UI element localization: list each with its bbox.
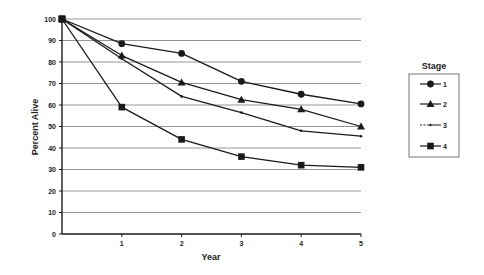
y-tick-label: 80 [48,59,56,66]
series-stage-1 [59,16,365,108]
legend-label: 4 [443,143,447,150]
legend-label: 3 [443,122,447,129]
series-stage-2 [59,16,365,130]
series-stage-3 [59,16,363,138]
series-stage-4 [59,16,365,171]
x-axis-ticks: 12345 [120,234,363,247]
legend-box [409,74,459,157]
legend-title: Stage [422,61,447,71]
y-axis-ticks: 0102030405060708090100 [44,16,62,238]
x-axis-title: Year [201,252,221,262]
data-series [59,16,365,171]
legend-label: 2 [443,101,447,108]
legend-label: 1 [443,81,447,88]
gridlines [62,19,361,213]
y-tick-label: 60 [48,102,56,109]
x-tick-label: 5 [359,240,363,247]
survival-chart: 0102030405060708090100 12345 Percent Ali… [0,0,484,275]
y-tick-label: 70 [48,80,56,87]
y-tick-label: 50 [48,123,56,130]
x-tick-label: 2 [180,240,184,247]
x-tick-label: 4 [299,240,303,247]
y-tick-label: 30 [48,166,56,173]
y-tick-label: 20 [48,188,56,195]
y-tick-label: 10 [48,209,56,216]
y-axis-title: Percent Alive [30,99,40,156]
x-tick-label: 1 [120,240,124,247]
y-tick-label: 0 [52,231,56,238]
legend: Stage 1234 [409,61,459,157]
y-tick-label: 40 [48,145,56,152]
y-tick-label: 100 [44,16,56,23]
x-tick-label: 3 [239,240,243,247]
y-tick-label: 90 [48,37,56,44]
